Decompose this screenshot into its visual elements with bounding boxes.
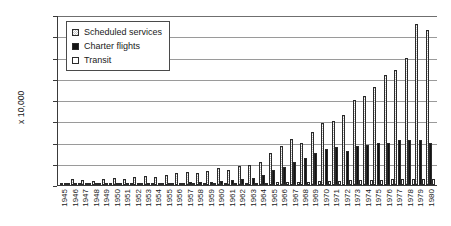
x-axis-tick-label: 1959 xyxy=(206,189,215,207)
x-axis-tick: 1966 xyxy=(279,188,289,226)
legend-item-transit: Transit xyxy=(72,53,162,67)
x-axis-tick-label: 1956 xyxy=(175,189,184,207)
y-axis-title: x 10,000 xyxy=(2,18,12,78)
x-axis-tick: 1978 xyxy=(404,188,414,226)
bar-group xyxy=(206,16,216,185)
x-axis-tick: 1976 xyxy=(384,188,394,226)
x-axis-tick-label: 1962 xyxy=(238,189,247,207)
legend-label: Charter flights xyxy=(84,42,140,51)
x-axis-tick: 1946 xyxy=(69,188,79,226)
x-axis-tick: 1971 xyxy=(331,188,341,226)
legend-swatch-charter-icon xyxy=(72,43,79,50)
x-axis-tick-label: 1961 xyxy=(227,189,236,207)
x-axis-tick-label: 1964 xyxy=(259,189,268,207)
legend-label: Scheduled services xyxy=(84,28,162,37)
x-axis-tick-label: 1972 xyxy=(342,189,351,207)
legend-swatch-transit-icon xyxy=(72,57,79,64)
bar-transit xyxy=(432,179,435,185)
x-axis-tick: 1951 xyxy=(122,188,132,226)
x-axis-labels: 1945194619471948194919501951195219531954… xyxy=(57,188,437,226)
bar-charter xyxy=(325,149,328,185)
bar-group xyxy=(290,16,300,185)
bar-group xyxy=(258,16,268,185)
x-axis-tick-label: 1970 xyxy=(321,189,330,207)
bar-group xyxy=(311,16,321,185)
x-axis-tick: 1945 xyxy=(59,188,69,226)
x-axis-tick: 1960 xyxy=(216,188,226,226)
bar-group xyxy=(394,16,404,185)
x-axis-tick: 1949 xyxy=(101,188,111,226)
x-axis-tick-label: 1973 xyxy=(353,189,362,207)
x-axis-tick: 1947 xyxy=(80,188,90,226)
x-axis-tick-label: 1952 xyxy=(133,189,142,207)
x-axis-tick: 1958 xyxy=(195,188,205,226)
y-axis-tick-mark xyxy=(53,80,57,81)
y-axis-tick-mark xyxy=(53,122,57,123)
bar-group xyxy=(217,16,227,185)
x-axis-tick: 1973 xyxy=(352,188,362,226)
x-axis-tick-label: 1949 xyxy=(102,189,111,207)
x-axis-tick-label: 1963 xyxy=(248,189,257,207)
x-axis-tick-label: 1951 xyxy=(123,189,132,207)
x-axis-tick-label: 1969 xyxy=(311,189,320,207)
chart-legend: Scheduled services Charter flights Trans… xyxy=(66,21,170,71)
x-axis-tick: 1959 xyxy=(206,188,216,226)
x-axis-tick: 1979 xyxy=(415,188,425,226)
bar-group xyxy=(321,16,331,185)
x-axis-tick-label: 1979 xyxy=(416,189,425,207)
x-axis-tick: 1972 xyxy=(342,188,352,226)
y-axis-tick-mark xyxy=(53,16,57,17)
bar-group xyxy=(196,16,206,185)
y-axis-tick-mark xyxy=(53,144,57,145)
x-axis-tick: 1962 xyxy=(237,188,247,226)
x-axis-tick-label: 1955 xyxy=(164,189,173,207)
bar-group xyxy=(331,16,341,185)
x-axis-tick: 1969 xyxy=(310,188,320,226)
legend-swatch-scheduled-icon xyxy=(72,29,79,36)
bar-group xyxy=(279,16,289,185)
x-axis-tick-label: 1946 xyxy=(70,189,79,207)
x-axis-tick: 1954 xyxy=(153,188,163,226)
x-axis-tick-label: 1966 xyxy=(280,189,289,207)
x-axis-tick-label: 1968 xyxy=(301,189,310,207)
bar-group xyxy=(269,16,279,185)
x-axis-tick-label: 1945 xyxy=(60,189,69,207)
bar-group xyxy=(384,16,394,185)
x-axis-tick-label: 1978 xyxy=(405,189,414,207)
x-axis-tick: 1970 xyxy=(321,188,331,226)
bar-group xyxy=(342,16,352,185)
bar-group xyxy=(175,16,185,185)
x-axis-tick: 1952 xyxy=(132,188,142,226)
x-axis-tick: 1968 xyxy=(300,188,310,226)
legend-label: Transit xyxy=(84,56,111,65)
bar-charter xyxy=(335,147,338,185)
x-axis-tick: 1965 xyxy=(268,188,278,226)
x-axis-tick-label: 1980 xyxy=(426,189,435,207)
x-axis-tick-label: 1977 xyxy=(395,189,404,207)
x-axis-tick: 1948 xyxy=(90,188,100,226)
bar-group xyxy=(227,16,237,185)
x-axis-tick-label: 1947 xyxy=(81,189,90,207)
legend-item-scheduled-services: Scheduled services xyxy=(72,25,162,39)
x-axis-tick: 1967 xyxy=(289,188,299,226)
bar-chart: x 10,000 0100200300400500600700800 19451… xyxy=(0,0,451,226)
x-axis-tick-label: 1975 xyxy=(374,189,383,207)
y-axis-tick-mark xyxy=(53,165,57,166)
x-axis-tick: 1980 xyxy=(425,188,435,226)
x-axis-tick: 1964 xyxy=(258,188,268,226)
bar-group xyxy=(248,16,258,185)
bar-group xyxy=(237,16,247,185)
x-axis-tick-label: 1954 xyxy=(154,189,163,207)
bar-group xyxy=(363,16,373,185)
x-axis-tick: 1961 xyxy=(227,188,237,226)
y-axis-tick-mark xyxy=(53,186,57,187)
x-axis-tick: 1953 xyxy=(143,188,153,226)
x-axis-tick-label: 1958 xyxy=(196,189,205,207)
x-axis-tick-label: 1967 xyxy=(290,189,299,207)
bar-group xyxy=(373,16,383,185)
x-axis-tick: 1977 xyxy=(394,188,404,226)
bar-group xyxy=(415,16,425,185)
x-axis-tick: 1975 xyxy=(373,188,383,226)
x-axis-tick: 1950 xyxy=(111,188,121,226)
bar-group xyxy=(352,16,362,185)
